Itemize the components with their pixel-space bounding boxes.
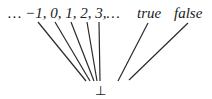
edge-3-bottom [99, 22, 100, 81]
flat-domain-diagram: … −1, 0, 1, 2, 3,… true false ⊥ [0, 0, 212, 99]
edge-minus1-bottom [38, 22, 86, 81]
edge-true-bottom [118, 23, 148, 81]
edge-0-bottom [55, 22, 90, 81]
edge-false-bottom [129, 23, 188, 80]
edge-2-bottom [87, 22, 97, 81]
edge-1-bottom [71, 22, 94, 81]
bottom-element: ⊥ [95, 84, 106, 97]
